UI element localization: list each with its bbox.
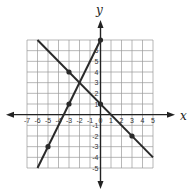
x-axis-left-arrow-icon bbox=[6, 112, 14, 118]
y-tick-label: -4 bbox=[92, 154, 98, 161]
data-point bbox=[98, 37, 103, 42]
axes bbox=[6, 20, 175, 189]
y-axis-up-arrow-icon bbox=[98, 20, 104, 28]
y-tick-label: 3 bbox=[95, 79, 99, 86]
y-tick-label: 6 bbox=[95, 47, 99, 54]
y-axis-label: y bbox=[95, 3, 103, 17]
x-tick-label: -3 bbox=[66, 117, 72, 124]
x-tick-label: -2 bbox=[76, 117, 82, 124]
x-tick-label: -6 bbox=[34, 117, 40, 124]
data-point bbox=[45, 144, 50, 149]
y-tick-label: 2 bbox=[95, 90, 99, 97]
data-point bbox=[98, 101, 103, 106]
tick-labels: -7-6-5-4-3-2-1012345-5-4-3-2-1123456 bbox=[24, 47, 155, 171]
x-axis-label: x bbox=[180, 109, 187, 123]
x-tick-label: -4 bbox=[55, 117, 61, 124]
x-axis-right-arrow-icon bbox=[167, 112, 175, 118]
y-tick-label: -3 bbox=[92, 143, 98, 150]
x-tick-label: 0 bbox=[99, 117, 103, 124]
x-tick-label: 4 bbox=[141, 117, 145, 124]
x-tick-label: 1 bbox=[109, 117, 113, 124]
coordinate-plane: -7-6-5-4-3-2-1012345-5-4-3-2-1123456 x y bbox=[0, 0, 190, 190]
x-tick-label: 3 bbox=[130, 117, 134, 124]
y-tick-label: -1 bbox=[92, 122, 98, 129]
y-tick-label: -5 bbox=[92, 165, 98, 172]
x-tick-label: 2 bbox=[120, 117, 124, 124]
data-point bbox=[66, 69, 71, 74]
y-tick-label: 5 bbox=[95, 58, 99, 65]
y-tick-label: 4 bbox=[95, 69, 99, 76]
data-point bbox=[129, 133, 134, 138]
y-tick-label: -2 bbox=[92, 133, 98, 140]
x-tick-label: 5 bbox=[151, 117, 155, 124]
y-tick-label: 1 bbox=[95, 101, 99, 108]
data-point bbox=[66, 101, 71, 106]
y-axis-down-arrow-icon bbox=[98, 181, 104, 189]
x-tick-label: -7 bbox=[24, 117, 30, 124]
x-tick-label: -5 bbox=[45, 117, 51, 124]
